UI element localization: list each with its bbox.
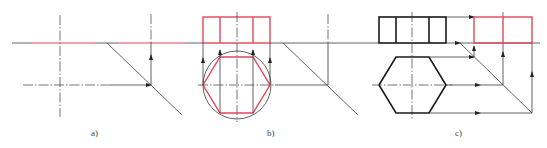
panel-b [185, 12, 362, 122]
panel-a [12, 14, 185, 117]
front-view-rect [379, 17, 446, 43]
panel-b-label: b) [267, 128, 275, 138]
drawing [0, 0, 547, 148]
miter-line [460, 43, 532, 113]
panel-c [362, 12, 540, 120]
front-view-rect [203, 17, 270, 43]
miter-line [283, 43, 358, 115]
orthographic-projection-figure: a) b) c) [0, 0, 547, 148]
miter-line [107, 43, 182, 115]
panel-c-label: c) [455, 128, 462, 138]
panel-a-label: a) [91, 128, 98, 138]
